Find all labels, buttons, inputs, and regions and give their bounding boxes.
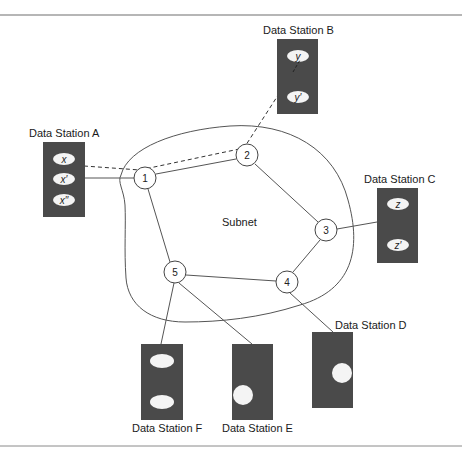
data-station-c[interactable]: Data Station C z z′ — [364, 173, 436, 263]
subnet-label: Subnet — [222, 216, 257, 228]
station-b-item-1: y — [295, 51, 302, 62]
data-station-b[interactable]: Data Station B y y′ — [263, 24, 334, 114]
station-e-box — [232, 344, 273, 420]
link-3-c — [337, 222, 377, 229]
node-4[interactable]: 4 — [276, 271, 298, 293]
data-station-a[interactable]: Data Station A x x′ x′′ — [29, 127, 100, 217]
node-3-label: 3 — [323, 225, 329, 236]
station-b-label: Data Station B — [263, 24, 334, 36]
link-2-3 — [255, 164, 318, 222]
station-d-label: Data Station D — [335, 319, 407, 331]
link-1-2 — [156, 159, 236, 174]
node-5-label: 5 — [172, 267, 178, 278]
link-4-d — [290, 293, 333, 332]
station-c-label: Data Station C — [364, 173, 436, 185]
data-station-f[interactable]: Data Station F — [132, 344, 203, 434]
node-4-label: 4 — [284, 277, 290, 288]
data-station-e[interactable]: Data Station E — [222, 344, 293, 434]
station-a-label: Data Station A — [29, 127, 100, 139]
link-1-5 — [148, 189, 170, 262]
station-d-port — [332, 363, 352, 383]
station-e-port — [233, 385, 253, 405]
station-f-label: Data Station F — [132, 422, 203, 434]
links — [85, 159, 377, 344]
node-1-label: 1 — [142, 173, 148, 184]
data-station-d[interactable]: Data Station D — [312, 319, 407, 408]
station-f-slot-1 — [150, 354, 174, 368]
node-2[interactable]: 2 — [236, 144, 258, 166]
network-diagram: Subnet Data Station A x x′ x′′ Data Stat… — [0, 0, 473, 460]
station-a-item-2: x′ — [60, 174, 69, 185]
station-a-item-1: x — [61, 154, 68, 165]
station-b-item-2: y′ — [294, 92, 303, 103]
link-5-f — [161, 283, 174, 344]
link-3-4 — [293, 240, 320, 272]
station-c-item-2: z′ — [394, 240, 403, 251]
dashed-route — [70, 72, 293, 170]
station-c-item-1: z — [395, 199, 401, 210]
node-2-label: 2 — [244, 150, 250, 161]
node-3[interactable]: 3 — [315, 219, 337, 241]
node-5[interactable]: 5 — [164, 261, 186, 283]
station-f-slot-2 — [150, 395, 174, 409]
node-1[interactable]: 1 — [134, 167, 156, 189]
station-a-item-3: x′′ — [59, 195, 70, 206]
link-5-e — [179, 283, 252, 344]
link-4-5 — [186, 275, 276, 281]
station-e-label: Data Station E — [222, 422, 293, 434]
